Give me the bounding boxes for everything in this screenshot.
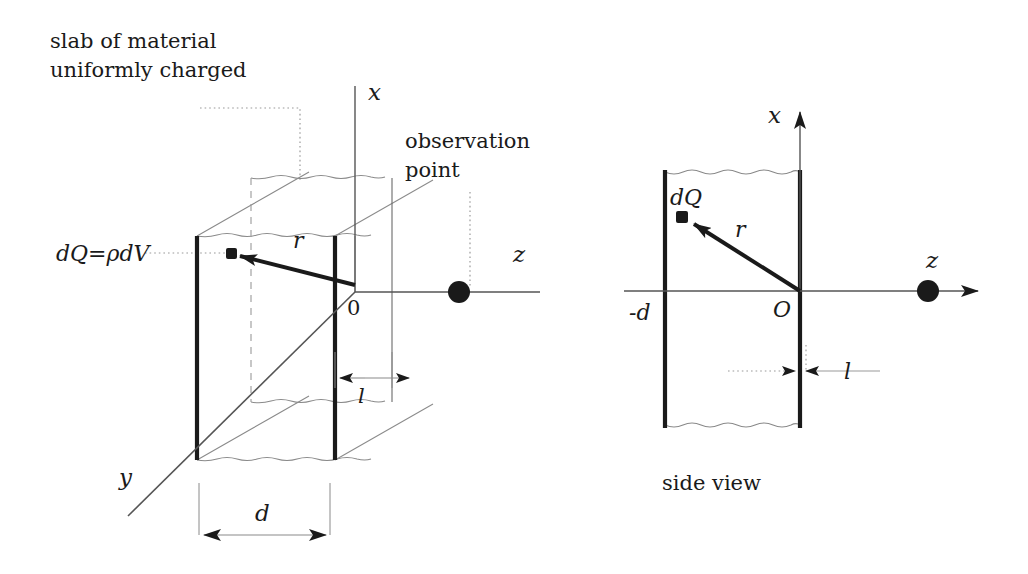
slab-annotation-line2: uniformly charged bbox=[50, 58, 247, 82]
right-origin-label: O bbox=[773, 297, 791, 322]
left-dim-l: l bbox=[335, 352, 409, 408]
observation-point-marker bbox=[448, 281, 470, 303]
right-dim-l-label: l bbox=[844, 359, 851, 384]
right-slab-top-edge bbox=[665, 170, 798, 174]
physics-diagram-figure: x z y 0 r l d bbox=[0, 0, 1028, 574]
right-slab-bottom-edge bbox=[665, 423, 798, 427]
right-dim-l: l bbox=[728, 345, 880, 384]
right-r-label: r bbox=[735, 217, 747, 242]
slab-bottom-face bbox=[197, 396, 433, 461]
observation-annotation-line1: observation bbox=[405, 129, 530, 153]
left-origin-label: 0 bbox=[347, 296, 360, 320]
slab-annotation-line1: slab of material bbox=[50, 29, 217, 53]
right-r-vector bbox=[694, 224, 800, 291]
right-wall-left-label: -d bbox=[629, 300, 651, 325]
diagram-canvas: x z y 0 r l d bbox=[0, 0, 1028, 574]
right-charge-element-marker bbox=[676, 211, 688, 223]
left-x-axis-label: x bbox=[368, 79, 381, 105]
observation-annotation-line2: point bbox=[405, 158, 460, 182]
left-dim-d: d bbox=[199, 483, 330, 535]
left-y-axis-label: y bbox=[118, 464, 133, 490]
right-z-axis-label: z bbox=[925, 247, 939, 273]
left-z-axis-label: z bbox=[512, 241, 526, 267]
side-view-caption: side view bbox=[662, 471, 761, 495]
right-x-axis-label: x bbox=[768, 102, 781, 128]
left-charge-element-marker bbox=[226, 248, 237, 259]
left-y-axis bbox=[128, 292, 355, 516]
left-r-vector bbox=[240, 256, 355, 285]
left-diagram: x z y 0 r l d bbox=[50, 29, 540, 535]
left-r-label: r bbox=[293, 228, 305, 253]
left-dim-l-label: l bbox=[358, 384, 365, 408]
right-charge-element-label: dQ bbox=[670, 185, 702, 210]
right-observation-point-marker bbox=[917, 280, 939, 302]
charge-element-annotation: dQ=ρdV bbox=[56, 241, 152, 266]
slab-callout-leader bbox=[200, 108, 300, 180]
slab-top-face bbox=[197, 172, 433, 237]
right-diagram: x z O -d r dQ l side view bbox=[624, 102, 978, 495]
left-dim-d-label: d bbox=[255, 500, 270, 526]
